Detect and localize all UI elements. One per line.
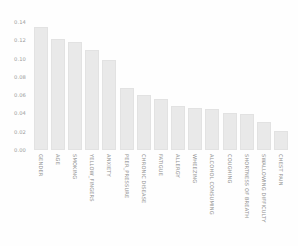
bars-container: [30, 22, 292, 150]
bar[interactable]: [223, 113, 237, 150]
x-axis-tick: COUGHING: [221, 152, 238, 244]
x-axis-tick-label: COUGHING: [227, 154, 233, 184]
bar-slot: [221, 22, 238, 150]
y-axis-tick-label: 0.00: [14, 147, 26, 153]
x-axis-tick-label: ANXIETY: [106, 154, 112, 177]
bar[interactable]: [240, 114, 254, 150]
x-axis-tick: ALLERGY: [170, 152, 187, 244]
x-axis-tick-label: SMOKING: [72, 154, 78, 179]
x-axis-tick: ANXIETY: [101, 152, 118, 244]
x-axis-tick: CHRONIC DISEASE: [135, 152, 152, 244]
x-axis-tick: FATIGUE: [152, 152, 169, 244]
bar-slot: [101, 22, 118, 150]
bar[interactable]: [85, 50, 99, 150]
x-axis-tick-label: WHEEZING: [192, 154, 198, 183]
x-axis-tick-label: SWALLOWING DIFFICULTY: [261, 154, 267, 222]
x-axis-tick-label: GENDER: [38, 154, 44, 177]
bar[interactable]: [68, 42, 82, 150]
bar-slot: [273, 22, 290, 150]
bar-slot: [66, 22, 83, 150]
bar-chart: 0.140.120.100.080.060.040.020.00 GENDERA…: [0, 0, 298, 246]
y-axis-tick-label: 0.02: [14, 129, 26, 135]
x-axis-tick: YELLOW_FINGERS: [84, 152, 101, 244]
y-axis-tick-label: 0.04: [14, 110, 26, 116]
x-axis-tick-label: FATIGUE: [158, 154, 164, 176]
bar-slot: [187, 22, 204, 150]
bar[interactable]: [154, 99, 168, 150]
x-axis-tick: PEER_PRESSURE: [118, 152, 135, 244]
x-axis-tick-label: CHEST PAIN: [278, 154, 284, 186]
x-axis: GENDERAGESMOKINGYELLOW_FINGERSANXIETYPEE…: [30, 152, 292, 244]
bar-slot: [170, 22, 187, 150]
y-axis-tick-label: 0.08: [14, 74, 26, 80]
bar[interactable]: [51, 39, 65, 150]
bar-slot: [118, 22, 135, 150]
y-axis-tick-label: 0.06: [14, 92, 26, 98]
plot-area: [30, 22, 292, 150]
x-axis-tick-label: ALCOHOL CONSUMING: [209, 154, 215, 215]
x-axis-tick: SMOKING: [66, 152, 83, 244]
bar[interactable]: [274, 131, 288, 150]
x-axis-tick-label: SHORTNESS OF BREATH: [244, 154, 250, 218]
bar-slot: [49, 22, 66, 150]
bar-slot: [255, 22, 272, 150]
y-axis-tick-label: 0.10: [14, 56, 26, 62]
x-axis-tick: ALCOHOL CONSUMING: [204, 152, 221, 244]
bar[interactable]: [257, 122, 271, 150]
bar[interactable]: [171, 106, 185, 150]
bar[interactable]: [34, 27, 48, 150]
x-axis-tick: SWALLOWING DIFFICULTY: [255, 152, 272, 244]
bar-slot: [84, 22, 101, 150]
bar[interactable]: [205, 109, 219, 150]
bar-slot: [204, 22, 221, 150]
y-axis: 0.140.120.100.080.060.040.020.00: [0, 22, 30, 150]
x-axis-tick-label: YELLOW_FINGERS: [89, 154, 95, 202]
bar[interactable]: [188, 108, 202, 150]
bar-slot: [135, 22, 152, 150]
x-axis-tick-label: CHRONIC DISEASE: [141, 154, 147, 204]
x-axis-tick-label: PEER_PRESSURE: [124, 154, 130, 198]
y-axis-tick-label: 0.12: [14, 37, 26, 43]
x-axis-tick: CHEST PAIN: [273, 152, 290, 244]
bar-slot: [32, 22, 49, 150]
bar-slot: [152, 22, 169, 150]
bar-slot: [238, 22, 255, 150]
bar[interactable]: [120, 88, 134, 150]
x-axis-tick-label: ALLERGY: [175, 154, 181, 178]
x-axis-tick: WHEEZING: [187, 152, 204, 244]
x-axis-tick: AGE: [49, 152, 66, 244]
x-axis-tick-label: AGE: [55, 154, 61, 165]
x-axis-tick: GENDER: [32, 152, 49, 244]
y-axis-tick-label: 0.14: [14, 19, 26, 25]
x-axis-tick: SHORTNESS OF BREATH: [238, 152, 255, 244]
bar[interactable]: [102, 60, 116, 150]
bar[interactable]: [137, 95, 151, 150]
